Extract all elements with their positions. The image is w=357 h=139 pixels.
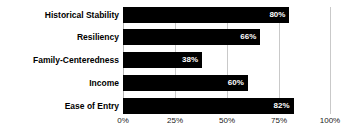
bar-row: 60% xyxy=(123,75,331,91)
value-axis-ticks: 0% 25% 50% 75% 100% xyxy=(123,116,331,130)
category-label: Income xyxy=(1,75,119,91)
bar-value-label: 80% xyxy=(269,7,285,23)
bar-row: 82% xyxy=(123,98,331,114)
bar-family-centeredness[interactable]: 38% xyxy=(123,52,202,68)
category-label: Family-Centeredness xyxy=(1,52,119,68)
bar-row: 80% xyxy=(123,7,331,23)
bar-chart: Historical Stability Resiliency Family-C… xyxy=(0,0,357,139)
bar-row: 38% xyxy=(123,52,331,68)
bar-historical-stability[interactable]: 80% xyxy=(123,7,289,23)
bar-rows: 80% 66% 38% 60% 82% xyxy=(123,7,331,114)
bar-row: 66% xyxy=(123,29,331,45)
bar-value-label: 60% xyxy=(228,75,244,91)
category-axis-labels: Historical Stability Resiliency Family-C… xyxy=(0,7,119,114)
axis-tick-label: 50% xyxy=(219,116,235,125)
category-label: Historical Stability xyxy=(1,7,119,23)
bar-resiliency[interactable]: 66% xyxy=(123,29,260,45)
bar-value-label: 66% xyxy=(240,29,256,45)
category-label: Ease of Entry xyxy=(1,98,119,114)
bar-value-label: 38% xyxy=(182,52,198,68)
bar-ease-of-entry[interactable]: 82% xyxy=(123,98,294,114)
plot-area: 80% 66% 38% 60% 82% xyxy=(123,7,331,114)
axis-tick-label: 75% xyxy=(271,116,287,125)
axis-tick-label: 25% xyxy=(167,116,183,125)
bar-value-label: 82% xyxy=(274,98,290,114)
axis-tick-label: 100% xyxy=(320,116,340,125)
axis-tick-label: 0% xyxy=(117,116,129,125)
bar-income[interactable]: 60% xyxy=(123,75,248,91)
category-label: Resiliency xyxy=(1,29,119,45)
